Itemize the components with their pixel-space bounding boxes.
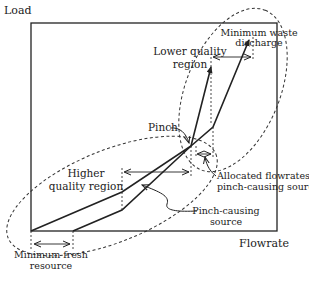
higher-region-label-2: quality region xyxy=(49,180,124,192)
pinch-label: Pinch xyxy=(148,121,178,133)
pinch-source-callout-arrow xyxy=(142,185,197,211)
x-axis-label: Flowrate xyxy=(239,237,289,250)
pinch-source-label-2: source xyxy=(210,216,243,227)
pinch-source-label-1: Pinch-causing xyxy=(192,205,259,216)
pinch-diagram: Load Flowrate Lower quality region Highe… xyxy=(0,0,309,290)
y-axis-label: Load xyxy=(4,4,32,17)
allocated-label-1: Allocated flowrates of xyxy=(216,170,309,181)
lower-region-label-1: Lower quality xyxy=(153,45,227,57)
allocated-callout-arrow xyxy=(205,157,216,176)
allocated-label-2: pinch-causing source xyxy=(217,181,309,192)
higher-region-label-1: Higher xyxy=(67,167,105,179)
demand-composite-curve xyxy=(31,67,211,231)
min-waste-label-2: discharge xyxy=(235,37,283,48)
min-fresh-label-2: resource xyxy=(30,260,73,271)
lower-region-label-2: region xyxy=(173,58,208,70)
min-fresh-label-1: Minimum fresh xyxy=(14,249,88,260)
